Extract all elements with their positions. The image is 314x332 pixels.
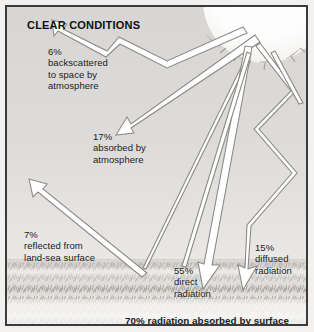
- label-diffused-radiation-line2: radiation: [255, 265, 292, 276]
- label-reflected-surface-line1: reflected from: [24, 240, 95, 251]
- label-backscattered-line1: backscattered: [48, 57, 108, 68]
- diagram-scene: CLEAR CONDITIONS 6% backscattered to spa…: [7, 7, 306, 324]
- label-backscattered-line3: atmosphere: [48, 80, 108, 91]
- label-reflected-surface: 7% reflected from land-sea surface: [24, 229, 95, 263]
- label-direct-radiation-line2: radiation: [174, 288, 211, 299]
- label-reflected-surface-percent: 7%: [24, 229, 95, 240]
- label-absorbed-atmosphere-line2: atmosphere: [93, 154, 146, 165]
- label-diffused-radiation-percent: 15%: [255, 242, 292, 253]
- label-absorbed-surface: 70% radiation absorbed by surface: [125, 315, 289, 326]
- figure-frame: CLEAR CONDITIONS 6% backscattered to spa…: [5, 5, 308, 326]
- label-absorbed-atmosphere-line1: absorbed by: [93, 142, 146, 153]
- label-direct-radiation-line1: direct: [174, 276, 211, 287]
- label-backscattered: 6% backscattered to space by atmosphere: [48, 46, 108, 92]
- label-diffused-radiation-line1: diffused: [255, 253, 292, 264]
- label-absorbed-atmosphere-percent: 17%: [93, 131, 146, 142]
- label-backscattered-line2: to space by: [48, 69, 108, 80]
- label-direct-radiation-percent: 55%: [174, 265, 211, 276]
- label-direct-radiation: 55% direct radiation: [174, 265, 211, 299]
- label-diffused-radiation: 15% diffused radiation: [255, 242, 292, 276]
- solar-radiation-figure: CLEAR CONDITIONS 6% backscattered to spa…: [0, 0, 314, 332]
- page-title: CLEAR CONDITIONS: [27, 19, 140, 31]
- label-absorbed-atmosphere: 17% absorbed by atmosphere: [93, 131, 146, 165]
- label-backscattered-percent: 6%: [48, 46, 108, 57]
- label-reflected-surface-line2: land-sea surface: [24, 252, 95, 263]
